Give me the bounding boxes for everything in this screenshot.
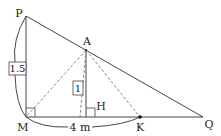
point-K-dot [138,115,142,119]
label-H: H [96,100,106,113]
measure-MK: 4 m [70,121,91,134]
geometry-diagram: 1.5 1 4 m P A M H K Q [0,0,221,136]
segment-PQ [26,16,203,117]
measure-PM: 1.5 [10,63,26,74]
label-A: A [82,35,92,48]
label-P: P [15,7,23,20]
right-angle-M [26,108,35,117]
dashed-AK [86,50,140,117]
label-K: K [136,121,145,134]
label-M: M [17,121,28,134]
right-angle-H [86,108,95,117]
measure-AH: 1 [75,83,81,94]
label-Q: Q [204,118,213,131]
point-A-dot [85,49,87,51]
